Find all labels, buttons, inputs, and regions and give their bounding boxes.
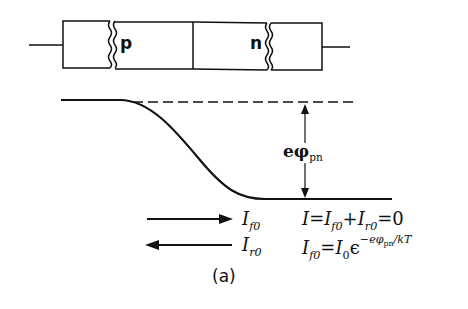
- reverse-arrow-head: [145, 240, 159, 250]
- right-contact-break-mark: [270, 23, 273, 70]
- current-balance-equation: I=If0+Ir0=0: [302, 210, 404, 232]
- figure-caption: (a): [212, 268, 236, 285]
- p-region-label: p: [120, 35, 132, 52]
- barrier-height-label: eφpn: [282, 143, 324, 163]
- right-contact-block: [271, 23, 322, 70]
- reverse-current-label: Ir0: [242, 236, 262, 258]
- right-break-mark-of-left: [114, 21, 117, 68]
- forward-current-label: If0: [242, 210, 260, 232]
- n-break-mark: [266, 23, 269, 70]
- forward-current-equation: If0=I0ϵ−eφpn/kT: [302, 238, 412, 261]
- n-region-label: n: [250, 35, 262, 52]
- potential-energy-curve: [61, 100, 392, 199]
- forward-arrow-head: [219, 214, 233, 224]
- left-contact-block: [63, 21, 110, 68]
- left-break-mark: [109, 21, 112, 68]
- barrier-arrow-head-down: [301, 188, 309, 198]
- pn-junction-diagram: [0, 0, 468, 309]
- barrier-arrow-head-up: [301, 104, 309, 114]
